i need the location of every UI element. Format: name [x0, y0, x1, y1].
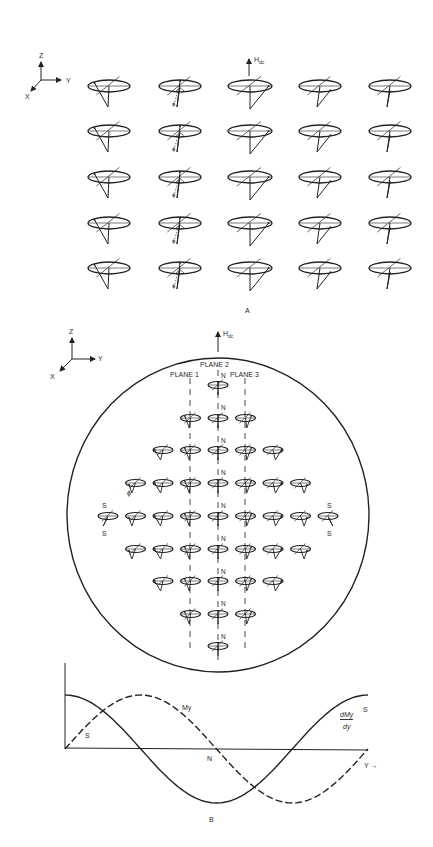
spin-precession-icon [228, 258, 272, 291]
spin-precession-icon [181, 510, 201, 526]
axis-label-x-b: X [50, 373, 55, 380]
spin-precession-icon [208, 608, 228, 624]
spin-precession-icon [153, 444, 173, 460]
spin-precession-icon [181, 575, 201, 591]
phi-label-b: ϕ [127, 489, 131, 496]
spin-precession-icon [181, 444, 201, 460]
spin-precession-icon [299, 167, 341, 198]
node-n-label: N [221, 502, 226, 509]
phi-label-a: ϕ [172, 238, 176, 244]
graph-center-n-label: N [207, 755, 212, 762]
spin-precession-icon [98, 510, 118, 526]
hdc-sub: dc [259, 59, 264, 65]
axis-label-x-a: X [25, 93, 30, 100]
spin-precession-icon [369, 121, 411, 152]
spin-precession-icon [88, 213, 130, 244]
hdc-label-a: Hdc [254, 56, 264, 65]
spin-precession-icon [263, 575, 283, 591]
spin-precession-icon [291, 510, 311, 526]
spin-precession-icon [236, 510, 256, 526]
spin-precession-icon [236, 543, 256, 559]
node-n-label: N [221, 469, 226, 476]
my-curve [65, 695, 368, 803]
hdc-label-b: Hdc [223, 330, 233, 339]
axis-label-z-b: Z [69, 328, 73, 335]
node-n-label: N [221, 568, 226, 575]
spin-precession-icon [299, 258, 341, 289]
spin-precession-icon [299, 121, 341, 152]
spin-precession-icon [291, 543, 311, 559]
hdc-sub: dc [228, 333, 233, 339]
magnetization-graph [65, 663, 368, 803]
axis-label-y-a: Y [66, 77, 71, 84]
axes-triad-b [60, 338, 95, 371]
axis-label-z-a: Z [39, 52, 43, 59]
spin-precession-icon [299, 213, 341, 244]
spin-precession-icon [263, 477, 283, 493]
spin-precession-icon [88, 76, 130, 107]
figure: ϕϕϕϕϕ NNNNNNNNN [0, 0, 433, 847]
dmy-label-denominator: dy [343, 723, 350, 730]
spin-precession-icon [208, 412, 228, 428]
spin-precession-icon [208, 640, 228, 656]
spin-precession-icon [159, 213, 201, 244]
plane-3-label: PLANE 3 [230, 371, 259, 378]
spin-precession-icon [369, 76, 411, 107]
spin-precession-icon [236, 444, 256, 460]
node-labels: NNNNNNNNN [221, 372, 226, 640]
my-curve-label: My [182, 704, 191, 711]
spin-precession-icon [369, 258, 411, 289]
spin-precession-icon [88, 258, 130, 289]
plane-2-label: PLANE 2 [200, 361, 229, 368]
node-n-label: N [221, 600, 226, 607]
spin-precession-icon [369, 167, 411, 198]
node-n-label: N [221, 535, 226, 542]
spin-precession-icon [263, 444, 283, 460]
spin-precession-icon [153, 543, 173, 559]
spin-precession-icon [299, 76, 341, 107]
spin-precession-icon [153, 575, 173, 591]
edge-label-left-top: S [102, 502, 107, 509]
spin-precession-icon [181, 477, 201, 493]
spin-precession-icon [88, 121, 130, 152]
node-n-label: N [221, 437, 226, 444]
phi-label-a: ϕ [172, 192, 176, 198]
spin-precession-icon [208, 510, 228, 526]
spin-precession-icon [263, 510, 283, 526]
spin-precession-icon [236, 608, 256, 624]
edge-label-right-bottom: S [327, 530, 332, 537]
spin-precession-icon [236, 477, 256, 493]
spin-grid-a: ϕϕϕϕϕ [88, 76, 411, 291]
node-n-label: N [221, 633, 226, 640]
phi-label-a: ϕ [172, 101, 176, 107]
panel-a-caption: A [245, 307, 250, 314]
node-n-label: N [221, 404, 226, 411]
axis-label-y-b: Y [98, 355, 103, 362]
spin-precession-icon [88, 167, 130, 198]
spin-precession-icon [159, 76, 201, 107]
spin-precession-icon [159, 167, 201, 198]
spin-precession-icon [208, 379, 228, 395]
spin-precession-icon [228, 167, 272, 200]
spin-precession-icon [208, 477, 228, 493]
spin-precession-icon [126, 510, 146, 526]
spin-precession-icon [208, 575, 228, 591]
panel-a: ϕϕϕϕϕ [31, 59, 411, 291]
spin-precession-icon [228, 213, 272, 246]
graph-right-s-label: S [363, 706, 368, 713]
spin-array-b [98, 379, 338, 656]
spin-precession-icon [126, 543, 146, 559]
phi-label-a: ϕ [172, 146, 176, 152]
edge-label-right-top: S [327, 502, 332, 509]
spin-precession-icon [236, 412, 256, 428]
spin-precession-icon [159, 121, 201, 152]
spin-precession-icon [369, 213, 411, 244]
spin-precession-icon [153, 510, 173, 526]
phi-label-a: ϕ [172, 283, 176, 289]
spin-precession-icon [263, 543, 283, 559]
spin-precession-icon [159, 258, 201, 289]
spin-precession-icon [291, 477, 311, 493]
spin-precession-icon [228, 76, 272, 109]
spin-precession-icon [208, 543, 228, 559]
spin-precession-icon [236, 575, 256, 591]
